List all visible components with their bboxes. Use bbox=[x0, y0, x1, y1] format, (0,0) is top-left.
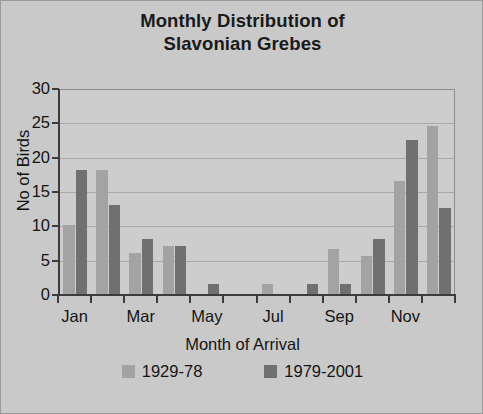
y-axis-tick bbox=[52, 191, 59, 193]
bar bbox=[328, 249, 339, 294]
bar bbox=[373, 239, 384, 294]
chart-title: Monthly Distribution of Slavonian Grebes bbox=[1, 9, 483, 55]
bar bbox=[175, 246, 186, 294]
gridline bbox=[59, 123, 454, 124]
x-axis-tick bbox=[289, 296, 291, 303]
y-axis-tick-label: 5 bbox=[4, 252, 50, 268]
x-axis-tick bbox=[355, 296, 357, 303]
legend-swatch-icon bbox=[122, 365, 135, 378]
x-axis-tick bbox=[156, 296, 158, 303]
y-axis-tick-label: 30 bbox=[4, 80, 50, 96]
bar bbox=[439, 208, 450, 294]
x-axis-tick bbox=[256, 296, 258, 303]
legend-item[interactable]: 1929-78 bbox=[122, 362, 203, 381]
gridline bbox=[59, 158, 454, 159]
bar bbox=[427, 126, 438, 294]
x-axis-tick-label: Jul bbox=[243, 307, 303, 326]
bar bbox=[142, 239, 153, 294]
bar bbox=[96, 170, 107, 294]
chart-legend: 1929-781979-2001 bbox=[1, 362, 483, 381]
x-axis-tick-label: May bbox=[177, 307, 237, 326]
y-axis-tick bbox=[52, 88, 59, 90]
y-axis-tick-label: 10 bbox=[4, 217, 50, 233]
x-axis-tick bbox=[322, 296, 324, 303]
bar bbox=[63, 225, 74, 294]
y-axis-tick bbox=[52, 122, 59, 124]
y-axis-tick-label: 20 bbox=[4, 149, 50, 165]
bar bbox=[262, 284, 273, 294]
x-axis-tick bbox=[421, 296, 423, 303]
chart-title-line-2: Slavonian Grebes bbox=[1, 32, 483, 55]
y-axis-tick-label: 25 bbox=[4, 114, 50, 130]
x-axis-tick-label: Sep bbox=[309, 307, 369, 326]
legend-label: 1929-78 bbox=[142, 362, 203, 381]
bar bbox=[109, 205, 120, 294]
x-axis-tick-label: Mar bbox=[111, 307, 171, 326]
bar bbox=[163, 246, 174, 294]
bar bbox=[340, 284, 351, 294]
x-axis-tick-label: Nov bbox=[375, 307, 435, 326]
y-axis-tick-label: 0 bbox=[4, 286, 50, 302]
chart-figure: Monthly Distribution of Slavonian Grebes… bbox=[0, 0, 483, 414]
x-axis-title: Month of Arrival bbox=[1, 335, 483, 354]
chart-title-line-1: Monthly Distribution of bbox=[1, 9, 483, 32]
x-axis-tick bbox=[57, 296, 59, 303]
legend-item[interactable]: 1979-2001 bbox=[264, 362, 363, 381]
bar bbox=[129, 253, 140, 294]
y-axis-tick bbox=[52, 157, 59, 159]
bar bbox=[307, 284, 318, 294]
bar bbox=[76, 170, 87, 294]
x-axis-tick bbox=[189, 296, 191, 303]
x-axis-tick bbox=[388, 296, 390, 303]
legend-label: 1979-2001 bbox=[284, 362, 363, 381]
bar bbox=[208, 284, 219, 294]
legend-swatch-icon bbox=[264, 365, 277, 378]
x-axis-tick bbox=[454, 296, 456, 303]
x-axis-tick-label: Jan bbox=[45, 307, 105, 326]
y-axis-tick-label: 15 bbox=[4, 183, 50, 199]
bar bbox=[361, 256, 372, 294]
bar bbox=[406, 140, 417, 295]
x-axis-tick bbox=[222, 296, 224, 303]
plot-area bbox=[58, 89, 455, 295]
x-axis-tick bbox=[90, 296, 92, 303]
x-axis-tick bbox=[123, 296, 125, 303]
y-axis-tick bbox=[52, 260, 59, 262]
y-axis-tick bbox=[52, 225, 59, 227]
bar bbox=[394, 181, 405, 294]
